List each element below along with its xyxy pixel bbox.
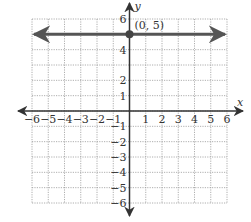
- x-tick-label: 5: [207, 113, 214, 126]
- x-axis-label: x: [237, 96, 244, 109]
- y-tick-label: −2: [110, 136, 126, 149]
- y-tick-label: −4: [110, 166, 126, 179]
- y-tick-label: 4: [120, 44, 127, 57]
- x-tick-label: −6: [24, 113, 40, 126]
- x-tick-label: −4: [56, 113, 72, 126]
- y-tick-label: −6: [110, 197, 126, 210]
- y-tick-label: 1: [120, 90, 127, 103]
- x-tick-label: 4: [191, 113, 198, 126]
- y-axis-label: y: [134, 0, 142, 13]
- plotted-series: [34, 30, 225, 38]
- y-tick-label: −1: [110, 120, 126, 133]
- y-tick-label: 6: [120, 13, 127, 26]
- y-tick-label: −5: [110, 182, 126, 195]
- x-tick-label: 2: [159, 113, 166, 126]
- y-tick-label: 2: [120, 74, 127, 87]
- x-tick-label: −2: [89, 113, 105, 126]
- point-label: (0, 5): [135, 19, 165, 32]
- x-tick-label: −5: [40, 113, 56, 126]
- x-tick-label: −3: [73, 113, 89, 126]
- y-tick-label: −3: [110, 151, 126, 164]
- point-marker: [126, 30, 134, 38]
- x-tick-label: 6: [224, 113, 231, 126]
- x-tick-label: 1: [142, 113, 149, 126]
- x-tick-label: 3: [175, 113, 182, 126]
- coordinate-plane: −6−5−4−3−2−1123456−6−5−4−3−2−11246 x y (…: [0, 0, 251, 222]
